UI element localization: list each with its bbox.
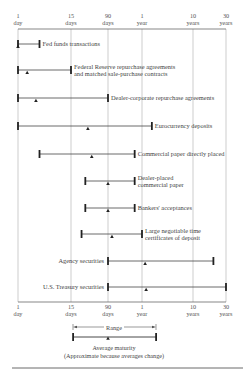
top-tick-label-unit: days (65, 19, 77, 26)
top-tick-label-value: 1 (16, 12, 19, 19)
instrument-row: Federal Reserve repurchase agreementsand… (17, 63, 176, 77)
range-start-cap (107, 257, 109, 265)
average-maturity-triangle (143, 262, 147, 265)
bottom-tick-label-unit: days (65, 310, 77, 317)
top-tick-label-unit: day (14, 19, 24, 26)
instrument-label: Dealer-corporate repurchase agreements (111, 94, 215, 101)
range-end-cap (134, 150, 136, 158)
top-tick-label-unit: years (219, 19, 233, 26)
range-start-cap (84, 177, 86, 185)
instrument-rows: Fed funds transactionsFederal Reserve re… (16, 40, 227, 291)
legend: Range Average maturity (Approximate beca… (64, 323, 164, 360)
instrument-label: Bankers' acceptances (138, 204, 193, 211)
instrument-label: U.S. Treasury securities (43, 283, 105, 290)
range-end-cap (213, 257, 215, 265)
bottom-tick-label-value: 30 (223, 303, 229, 310)
instrument-row: Commercial paper directly placed (39, 150, 226, 158)
top-axis: 1day15days90days1year10years30years (14, 12, 234, 29)
bottom-tick-label-unit: year (137, 310, 148, 317)
average-maturity-triangle (34, 99, 38, 102)
legend-caption-line1: Average maturity (92, 344, 136, 351)
top-tick-label-unit: years (186, 19, 200, 26)
bottom-tick-label-unit: years (186, 310, 200, 317)
range-end-cap (134, 204, 136, 212)
range-end-cap (225, 283, 227, 291)
range-end-cap (141, 230, 143, 238)
range-arrowhead-right (152, 326, 156, 328)
range-start-cap (17, 122, 19, 130)
average-maturity-triangle (90, 155, 94, 158)
range-end-cap (134, 177, 136, 185)
average-maturity-triangle (25, 71, 29, 74)
range-start-cap (17, 66, 19, 74)
average-maturity-triangle (144, 288, 148, 291)
range-end-cap (107, 94, 109, 102)
bottom-tick-label-value: 1 (140, 303, 143, 310)
legend-bar-end-cap (155, 333, 157, 341)
top-tick-label-value: 30 (223, 12, 229, 19)
top-tick-label-value: 90 (105, 12, 111, 19)
range-start-cap (39, 150, 41, 158)
bottom-tick-label-value: 90 (105, 303, 111, 310)
average-maturity-triangle (16, 45, 20, 48)
instrument-row: Large negotiable timecertificates of dep… (81, 227, 201, 241)
maturity-range-diagram: 1day15days90days1year10years30years 1day… (0, 0, 244, 374)
average-maturity-triangle (86, 127, 90, 130)
instrument-row: Dealer-corporate repurchase agreements (17, 94, 215, 102)
instrument-row: U.S. Treasury securities (43, 283, 227, 291)
top-tick-label-unit: days (102, 19, 114, 26)
instrument-label: Fed funds transactions (43, 40, 101, 47)
range-label: Range (106, 324, 122, 331)
bottom-tick-label-value: 15 (68, 303, 74, 310)
bottom-tick-label-value: 10 (190, 303, 196, 310)
instrument-label: Eurocurrency deposits (155, 122, 213, 129)
range-end-cap (70, 66, 72, 74)
top-tick-label-value: 1 (140, 12, 143, 19)
instrument-label: Commercial paper directly placed (138, 150, 226, 157)
legend-caption-line2: (Approximate because averages change) (64, 352, 164, 360)
top-tick-label-value: 15 (68, 12, 74, 19)
range-end-cap (39, 40, 41, 48)
top-tick-label-unit: year (137, 19, 148, 26)
instrument-label: certificates of deposit (145, 234, 200, 241)
range-end-cap (151, 122, 153, 130)
instrument-row: Dealer-placedcommercial paper (84, 174, 184, 188)
instrument-row: Fed funds transactions (16, 40, 100, 48)
instrument-row: Eurocurrency deposits (17, 122, 213, 130)
bottom-axis: 1day15days90days1year10years30years (14, 302, 234, 317)
bottom-tick-label-unit: years (219, 310, 233, 317)
range-start-cap (17, 94, 19, 102)
average-maturity-triangle (110, 235, 114, 238)
instrument-label: Large negotiable time (145, 227, 201, 234)
instrument-label: Federal Reserve repurchase agreements (74, 63, 176, 70)
instrument-row: Bankers' acceptances (84, 204, 192, 212)
instrument-label: commercial paper (138, 181, 185, 188)
average-maturity-triangle (106, 209, 110, 212)
instrument-row: Agency securities (58, 257, 214, 265)
bottom-tick-label-unit: days (102, 310, 114, 317)
legend-bar-start-cap (72, 333, 74, 341)
average-maturity-triangle (106, 182, 110, 185)
instrument-label: Agency securities (58, 257, 104, 264)
bottom-tick-label-value: 1 (16, 303, 19, 310)
range-arrowhead-left (73, 326, 77, 328)
instrument-label: Dealer-placed (138, 174, 175, 181)
bottom-tick-label-unit: day (14, 310, 24, 317)
range-start-cap (84, 204, 86, 212)
top-tick-label-value: 10 (190, 12, 196, 19)
instrument-label: and matched sale-purchase contracts (74, 70, 168, 77)
range-start-cap (81, 230, 83, 238)
range-start-cap (107, 283, 109, 291)
